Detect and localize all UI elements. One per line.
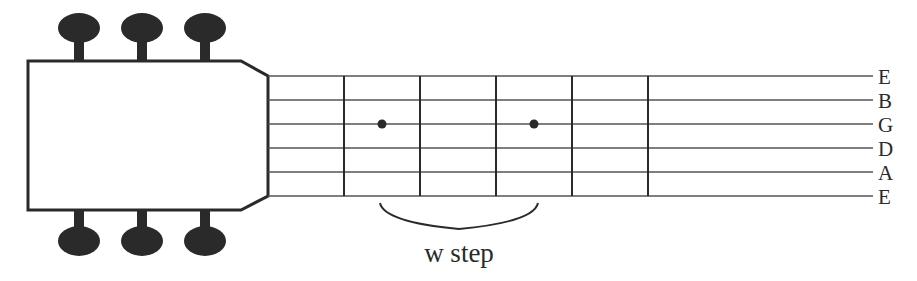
- tuning-peg-bottom: [58, 209, 100, 256]
- tuning-peg-bottom: [121, 209, 163, 256]
- string-label: D: [878, 137, 893, 161]
- string-label: A: [878, 161, 894, 185]
- whole-step-bracket: [380, 203, 538, 229]
- fretboard-diagram: EBGDAE w step: [0, 0, 917, 281]
- tuning-peg-bottom: [184, 209, 226, 256]
- frets: [344, 76, 648, 196]
- tuning-peg-top: [121, 13, 163, 62]
- headstock: [28, 61, 268, 210]
- finger-dot: [378, 120, 387, 129]
- strings: EBGDAE: [268, 65, 894, 209]
- string-label: B: [878, 89, 892, 113]
- string-label: E: [878, 185, 891, 209]
- tuning-peg-top: [184, 13, 226, 62]
- string-label: G: [878, 113, 893, 137]
- tuning-peg-top: [58, 13, 100, 62]
- finger-dot: [530, 120, 539, 129]
- string-label: E: [878, 65, 891, 89]
- whole-step-label: w step: [424, 238, 494, 268]
